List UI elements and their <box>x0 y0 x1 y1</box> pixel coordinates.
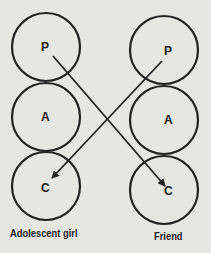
left-c-label: C <box>41 181 50 195</box>
left-caption: Adolescent girl <box>10 227 78 239</box>
left-a-label: A <box>41 110 50 124</box>
right-p-label: P <box>164 44 172 58</box>
ego-state-diagram <box>0 0 211 253</box>
right-a-label: A <box>164 113 173 127</box>
right-c-label: C <box>164 184 173 198</box>
right-caption: Friend <box>154 230 183 242</box>
left-p-label: P <box>41 40 49 54</box>
